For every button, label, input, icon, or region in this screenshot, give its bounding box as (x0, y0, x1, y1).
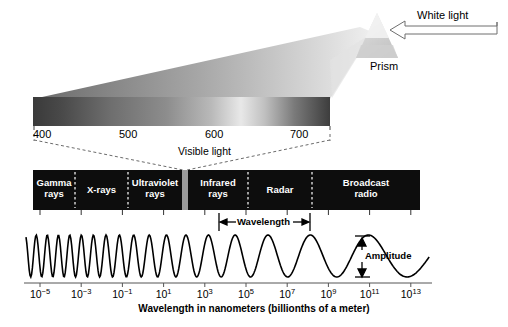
dispersed-beam (33, 27, 372, 99)
axis-tick-label: 10−3 (71, 287, 91, 300)
amplitude-annotation-label: Amplitude (365, 250, 411, 261)
white-light-label: White light (417, 9, 468, 21)
band-label-infrared-rays: Infrared (200, 177, 236, 188)
axis-tick-label: 103 (197, 287, 213, 300)
figure-caption: Wavelength in nanometers (billionths of … (0, 303, 508, 314)
band-label-ultraviolet-rays: rays (145, 188, 165, 199)
em-band-strip: GammaraysX-raysUltravioletraysInfraredra… (33, 170, 420, 210)
wavelength-annotation-label: Wavelength (237, 216, 290, 227)
axis-tick-label: 105 (238, 287, 254, 300)
axis-tick-label: 10−5 (30, 287, 50, 300)
band-label-x-rays: X-rays (87, 184, 116, 195)
band-label-gamma-rays: rays (44, 188, 64, 199)
visible-tick-600: 600 (205, 128, 223, 140)
axis-tick-label: 109 (320, 287, 336, 300)
visible-tick-400: 400 (33, 128, 51, 140)
band-label-ultraviolet-rays: Ultraviolet (132, 177, 179, 188)
white-light-arrow (390, 21, 497, 39)
visible-tick-500: 500 (119, 128, 137, 140)
prism-label: Prism (370, 60, 398, 72)
visible-tick-700: 700 (290, 128, 308, 140)
band-label-radar: Radar (267, 184, 294, 195)
axis-tick-label: 107 (279, 287, 295, 300)
axis-tick-label: 1011 (360, 287, 379, 300)
band-label-broadcast-radio: Broadcast (343, 177, 390, 188)
band-label-infrared-rays: rays (208, 188, 228, 199)
em-spectrum-figure: GammaraysX-raysUltravioletraysInfraredra… (0, 0, 508, 327)
prism-inner-highlight (365, 13, 389, 38)
band-label-gamma-rays: Gamma (37, 177, 73, 188)
prism-base-shade (356, 45, 398, 58)
prism-group (33, 13, 497, 99)
axis-tick-label: 10−1 (112, 287, 132, 300)
axis-tick-label: 1013 (401, 287, 421, 300)
band-visible-light (182, 170, 188, 210)
visible-light-label: Visible light (178, 145, 231, 157)
axis-tick-label: 101 (156, 287, 172, 300)
visible-spectrum-bar (33, 97, 330, 130)
band-label-broadcast-radio: radio (354, 188, 377, 199)
